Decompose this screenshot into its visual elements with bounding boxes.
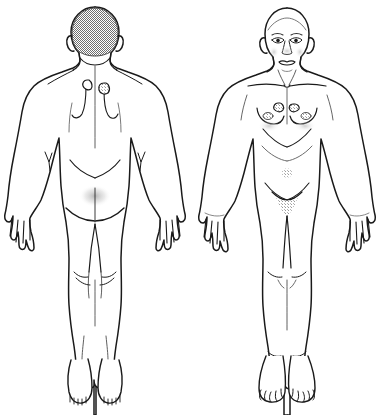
breast-left-shading	[258, 120, 280, 132]
pupil-left	[276, 39, 280, 43]
lesion-upper-back-right	[99, 83, 110, 94]
nose-shading	[280, 46, 294, 56]
canvas-background	[0, 0, 382, 415]
body-map-page: Human Body Map Posterior and Anterior Vi…	[0, 0, 382, 415]
heel-left	[68, 359, 92, 403]
body-map-illustration	[0, 0, 382, 415]
head-hair-shading	[72, 8, 118, 56]
cheek-right-shading	[295, 46, 305, 58]
breast-right-shading	[294, 120, 316, 132]
cheek-left-shading	[269, 46, 279, 58]
lesion-upper-back-left	[83, 80, 92, 90]
pupil-right	[294, 39, 298, 43]
lesion-chest-left	[274, 103, 284, 112]
areola-right	[301, 113, 311, 120]
heel-right	[98, 359, 122, 403]
lesion-chest-right	[289, 104, 299, 112]
navel	[282, 169, 292, 178]
areola-left	[263, 113, 273, 120]
